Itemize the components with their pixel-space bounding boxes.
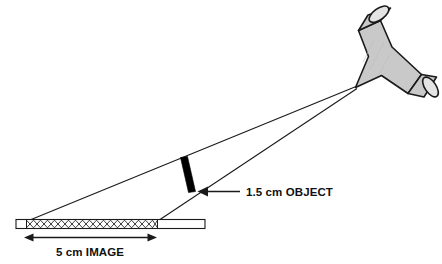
image-label: 5 cm IMAGE [56,246,124,258]
ray-group [28,87,358,222]
object-bar [181,157,196,193]
object-leader-arrow [198,187,241,197]
transducer [356,3,442,100]
object-label: 1.5 cm OBJECT [246,186,333,198]
ray-diagram-svg: 1.5 cm OBJECT 5 cm IMAGE [0,0,442,264]
image-dimension-arrow [24,234,157,242]
diagram-canvas: 1.5 cm OBJECT 5 cm IMAGE [0,0,442,264]
upper-ray [28,87,357,222]
lower-ray [157,89,357,222]
image-bar [16,220,205,229]
